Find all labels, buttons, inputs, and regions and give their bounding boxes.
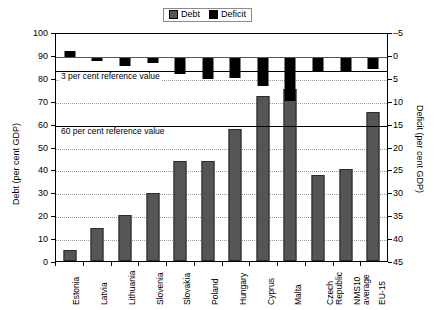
y-axis-tick-label-left: 30 (22, 189, 48, 198)
y-axis-tick-label-right: 0 (393, 52, 423, 61)
x-axis-label: CzechRepublic (326, 272, 344, 305)
y-axis-tick-label-left: 50 (22, 144, 48, 153)
x-axis-label: Latvia (100, 282, 109, 305)
y-axis-tick-label-left: 20 (22, 212, 48, 221)
y-axis-tick-label-right: 10 (393, 98, 423, 107)
x-axis-label: EU-15 (378, 281, 387, 305)
tick-mark (388, 79, 392, 80)
y-axis-tick-label-left: 100 (22, 29, 48, 38)
x-axis-label: NMS10average (353, 274, 371, 305)
y-axis-tick-label-right: 40 (393, 235, 423, 244)
tick-mark (388, 33, 392, 34)
y-axis-tick-label-right: 15 (393, 121, 423, 130)
y-axis-tick-label-right: 5 (393, 75, 423, 84)
x-axis-label: Lithuania (128, 270, 137, 305)
y-axis-tick-label-left: 70 (22, 98, 48, 107)
legend-item-deficit: Deficit (209, 10, 246, 19)
legend-label-debt: Debt (181, 10, 200, 19)
legend-label-deficit: Deficit (221, 10, 246, 19)
tick-mark (388, 125, 392, 126)
x-axis-label: Slovakia (183, 273, 192, 305)
y-axis-tick-label-right: 45 (393, 258, 423, 267)
y-axis-tick-label-right: 25 (393, 166, 423, 175)
y-axis-tick-label-right: 20 (393, 144, 423, 153)
y-axis-tick-label-right: –5 (393, 29, 423, 38)
legend-item-debt: Debt (169, 10, 200, 19)
y-axis-title-left: Debt (per cent GDP) (11, 123, 21, 205)
x-axis-label: Estonia (72, 277, 81, 305)
x-axis-label: Hungary (239, 273, 248, 305)
plot-area: 3 per cent reference value60 per cent re… (55, 33, 388, 262)
x-axis-label: Slovenia (156, 272, 165, 305)
y-axis-tick-label-left: 60 (22, 121, 48, 130)
y-axis-tick-label-left: 80 (22, 75, 48, 84)
y-axis-tick-label-left: 10 (22, 235, 48, 244)
tick-mark (388, 193, 392, 194)
x-axis-label: Malta (294, 284, 303, 305)
x-axis-label: Cyprus (267, 278, 276, 305)
tick-mark (388, 102, 392, 103)
chart-figure: Debt Deficit Debt (per cent GDP) Deficit… (0, 0, 441, 310)
reference-lines: 3 per cent reference value60 per cent re… (56, 34, 387, 261)
reference-line-label: 60 per cent reference value (59, 127, 166, 136)
reference-line-label: 3 per cent reference value (59, 72, 162, 81)
legend-swatch-debt (169, 10, 178, 19)
y-axis-tick-label-left: 90 (22, 52, 48, 61)
y-axis-tick-label-left: 0 (22, 258, 48, 267)
reference-line (56, 57, 387, 58)
tick-mark (388, 239, 392, 240)
tick-mark (388, 170, 392, 171)
legend-swatch-deficit (209, 10, 218, 19)
y-axis-tick-label-right: 30 (393, 189, 423, 198)
x-axis-label: Poland (211, 279, 220, 305)
tick-mark (388, 148, 392, 149)
y-axis-tick-label-right: 35 (393, 212, 423, 221)
tick-mark (388, 56, 392, 57)
x-axis-ticks (55, 262, 388, 267)
y-axis-tick-label-left: 40 (22, 166, 48, 175)
chart-legend: Debt Deficit (163, 8, 252, 22)
tick-mark (388, 216, 392, 217)
tick-mark (388, 262, 392, 263)
